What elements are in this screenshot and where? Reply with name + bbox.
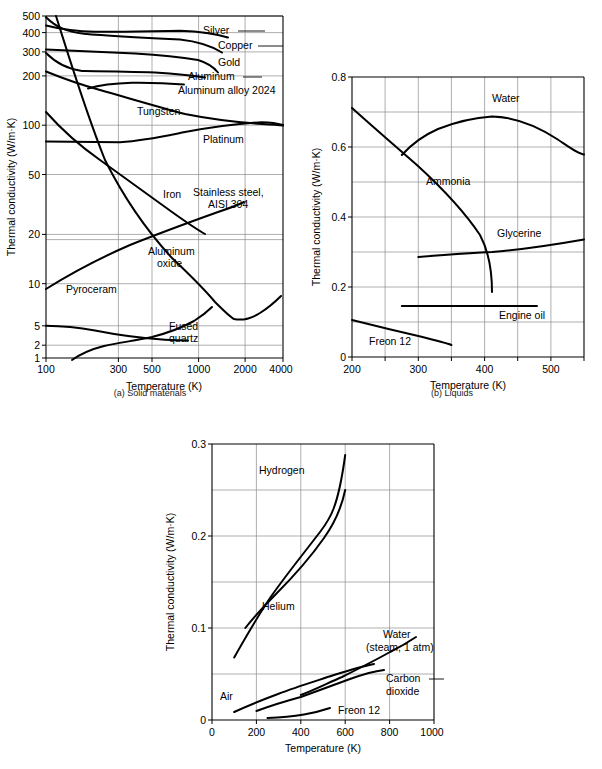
x-tick-label-liquids-500: 500 [542, 363, 560, 375]
x-tick-label-gases-1000: 1000 [420, 726, 444, 738]
label-gold: Gold [218, 56, 240, 68]
x-tick-label-gases-600: 600 [336, 726, 354, 738]
y-tick-label-liquids-0.4: 0.4 [331, 211, 346, 223]
chart-gases: 0.3 0.2 0.1 0 0 200 400 600 800 1000 Tem… [152, 420, 452, 769]
x-tick-label-gases-400: 400 [292, 726, 310, 738]
label-tungsten: Tungsten [137, 105, 181, 117]
x-tick-label-gases-200: 200 [248, 726, 266, 738]
label-water-liquid: Water [492, 92, 520, 104]
chart-liquids: 0.8 0.6 0.4 0.2 0 200 300 400 500 T [302, 55, 602, 400]
curve-stainless-steel [46, 202, 244, 289]
curve-iron [46, 112, 205, 234]
curve-freon-12-gas [268, 708, 331, 718]
grid-horizontal-solids [46, 16, 283, 326]
panel-liquids: 0.8 0.6 0.4 0.2 0 200 300 400 500 T [302, 55, 602, 400]
y-tick-label-liquids-0.6: 0.6 [331, 141, 346, 153]
y-tick-label-gases-0.3: 0.3 [191, 438, 206, 450]
y-tick-label-5: 5 [34, 320, 40, 332]
y-tick-label-100: 100 [22, 119, 40, 131]
label-hydrogen: Hydrogen [259, 464, 305, 476]
caption-solid-materials: (a) Solid materials [0, 388, 300, 398]
label-iron: Iron [163, 188, 181, 200]
curve-labels-gases: Hydrogen Helium Water (steam, 1 atm) Car… [220, 464, 444, 716]
y-tick-label-gases-0: 0 [200, 714, 206, 726]
y-tick-label-20: 20 [28, 228, 40, 240]
y-axis-gases: 0.3 0.2 0.1 0 [191, 438, 212, 726]
y-axis-title-liquids: Thermal conductivity (W/m·K) [310, 148, 322, 286]
label-water-steam-line2: (steam, 1 atm) [366, 641, 434, 653]
panel-gases: 0.3 0.2 0.1 0 0 200 400 600 800 1000 Tem… [152, 420, 452, 769]
label-stainless-steel-line1: Stainless steel, [193, 186, 264, 198]
curve-water [402, 117, 584, 156]
y-tick-label-gases-0.2: 0.2 [191, 530, 206, 542]
curve-aluminum-oxide [56, 16, 281, 320]
label-water-steam-line1: Water [383, 628, 411, 640]
x-axis-gases: 0 200 400 600 800 1000 [209, 720, 444, 738]
y-axis-title-gases: Thermal conductivity (W/m·K) [164, 513, 176, 651]
label-carbon-dioxide-line2: dioxide [386, 685, 419, 697]
label-freon-12-gas: Freon 12 [338, 704, 380, 716]
y-tick-label-200: 200 [22, 70, 40, 82]
x-axis-solids: 100 300 500 1000 2000 4000 [37, 358, 293, 375]
curve-glycerine [418, 240, 584, 258]
label-aluminum-alloy-2024: Aluminum alloy 2024 [178, 84, 276, 96]
panel-solid-materials: 500 400 300 200 100 50 20 10 5 2 1 [0, 0, 300, 400]
label-air: Air [220, 690, 233, 702]
label-silver: Silver [203, 24, 230, 36]
x-tick-label-2000: 2000 [233, 363, 257, 375]
x-tick-label-1000: 1000 [187, 363, 211, 375]
label-helium: Helium [262, 600, 295, 612]
y-tick-label-400: 400 [22, 27, 40, 39]
y-tick-label-liquids-0.8: 0.8 [331, 71, 346, 83]
x-tick-label-4000: 4000 [269, 363, 293, 375]
curve-copper [46, 17, 222, 52]
label-pyroceram: Pyroceram [66, 283, 117, 295]
curve-labels-liquids: Water Ammonia Glycerine Engine oil Freon… [369, 92, 545, 347]
x-tick-label-liquids-200: 200 [343, 363, 361, 375]
x-axis-title-gases: Temperature (K) [285, 742, 361, 754]
label-freon-12-liquid: Freon 12 [369, 335, 411, 347]
label-glycerine: Glycerine [497, 227, 542, 239]
y-tick-label-50: 50 [28, 169, 40, 181]
caption-liquids: (b) Liquids [302, 388, 602, 398]
x-tick-label-liquids-300: 300 [410, 363, 428, 375]
y-tick-label-500: 500 [22, 10, 40, 22]
curves-liquids [352, 108, 584, 345]
curve-aluminum-alloy-2024 [88, 83, 184, 89]
label-carbon-dioxide-line1: Carbon [386, 672, 421, 684]
label-aluminum-oxide-line1: Aluminum [148, 245, 195, 257]
label-aluminum: Aluminum [188, 70, 235, 82]
x-tick-label-300: 300 [110, 363, 128, 375]
label-copper: Copper [218, 39, 253, 51]
x-tick-label-500: 500 [143, 363, 161, 375]
y-tick-label-300: 300 [22, 46, 40, 58]
y-tick-label-10: 10 [28, 278, 40, 290]
x-axis-liquids: 200 300 400 500 [343, 357, 584, 375]
label-fused-quartz-line2: quartz [169, 332, 198, 344]
label-aluminum-oxide-line2: oxide [157, 257, 182, 269]
x-tick-label-gases-0: 0 [209, 726, 215, 738]
curve-hydrogen [234, 455, 345, 657]
y-axis-liquids: 0.8 0.6 0.4 0.2 0 [331, 71, 352, 363]
chart-solid-materials: 500 400 300 200 100 50 20 10 5 2 1 [0, 0, 300, 400]
label-engine-oil: Engine oil [499, 309, 545, 321]
label-fused-quartz-line1: Fused [169, 320, 198, 332]
curve-ammonia [352, 108, 492, 292]
y-axis-solids: 500 400 300 200 100 50 20 10 5 2 1 [22, 10, 46, 364]
x-tick-label-100: 100 [37, 363, 55, 375]
y-tick-label-gases-0.1: 0.1 [191, 622, 206, 634]
y-tick-label-liquids-0: 0 [340, 351, 346, 363]
label-stainless-steel-line2: AISI 304 [208, 198, 248, 210]
x-tick-label-liquids-400: 400 [476, 363, 494, 375]
y-tick-label-liquids-0.2: 0.2 [331, 281, 346, 293]
curve-helium [245, 490, 345, 628]
y-tick-label-2: 2 [34, 339, 40, 351]
label-ammonia: Ammonia [426, 175, 471, 187]
thermal-conductivity-figure: 500 400 300 200 100 50 20 10 5 2 1 [0, 0, 602, 769]
y-axis-title-solids: Thermal conductivity (W/m·K) [5, 118, 17, 256]
x-tick-label-gases-800: 800 [381, 726, 399, 738]
label-platinum: Platinum [203, 133, 244, 145]
curve-tungsten [46, 72, 283, 126]
